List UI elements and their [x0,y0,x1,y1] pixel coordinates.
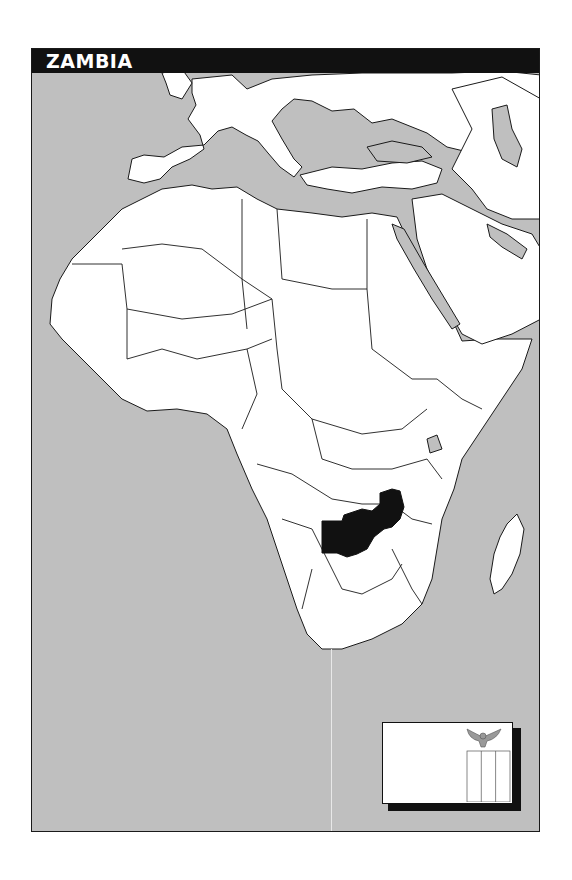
africa-map [32,49,540,832]
title-bar: ZAMBIA [32,49,539,73]
turkey [300,161,442,193]
madagascar [490,514,524,594]
meridian-line [331,649,332,832]
eagle-icon [467,729,501,747]
zambia-flag [382,722,513,804]
map-title: ZAMBIA [46,50,133,72]
caucasus-iran [452,77,540,219]
uk-island [162,69,192,99]
flag-stripes [467,751,510,802]
black-sea [367,141,432,163]
map-frame: ZAMBIA [31,48,540,832]
